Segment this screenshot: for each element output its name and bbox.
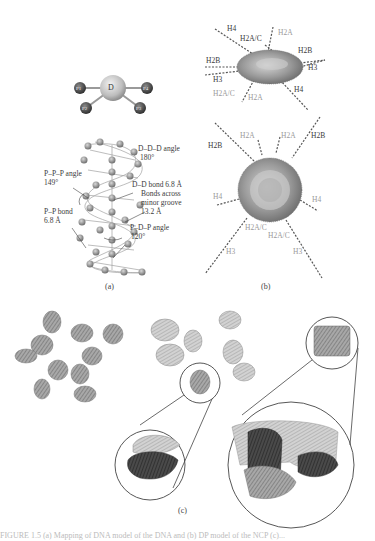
panel-c-graphics [0,0,375,541]
panel-c-label: (c) [178,506,187,515]
figure-caption: FIGURE 1.5 (a) Mapping of DNA model of t… [0,531,375,541]
